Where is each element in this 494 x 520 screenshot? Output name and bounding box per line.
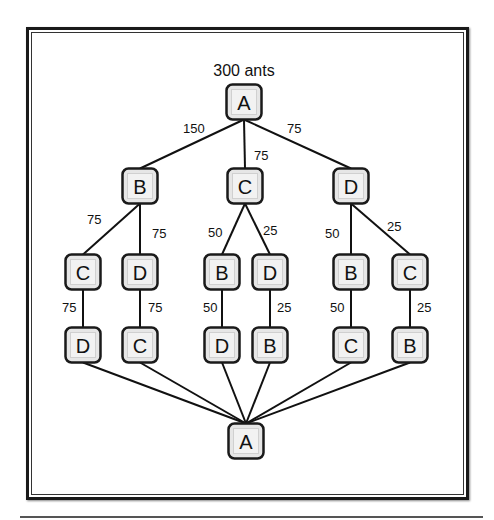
edge-n10-n16 <box>83 363 246 424</box>
node-b: B <box>393 328 428 363</box>
edge-label: 50 <box>325 226 339 241</box>
edge-label: 25 <box>387 219 401 234</box>
node-c: C <box>228 169 263 204</box>
node-d: D <box>253 255 288 290</box>
node-label: C <box>344 335 358 357</box>
node-label: D <box>263 262 277 284</box>
edge-n13-n16 <box>246 363 270 424</box>
node-b: B <box>123 169 158 204</box>
node-label: C <box>133 335 147 357</box>
node-d: D <box>205 328 240 363</box>
node-label: B <box>215 262 228 284</box>
node-d: D <box>334 169 369 204</box>
node-label: D <box>76 335 90 357</box>
node-b: B <box>334 255 369 290</box>
node-c: C <box>393 255 428 290</box>
node-label: A <box>237 92 251 114</box>
node-label: C <box>403 262 417 284</box>
node-label: C <box>76 262 90 284</box>
edge-n0-n2 <box>244 120 245 169</box>
node-label: A <box>239 431 253 453</box>
edge-label: 75 <box>62 300 76 315</box>
edge-label: 75 <box>148 300 162 315</box>
node-label: B <box>344 262 357 284</box>
edge-label: 50 <box>330 300 344 315</box>
edge-n14-n16 <box>246 363 351 424</box>
edge-n2-n6 <box>222 204 245 255</box>
node-label: D <box>133 262 147 284</box>
edge-labels: 1507575757550255025757550255025 <box>62 121 431 315</box>
diagram-title: 300 ants <box>213 62 274 79</box>
node-d: D <box>66 328 101 363</box>
node-label: B <box>263 335 276 357</box>
edge-label: 75 <box>152 226 166 241</box>
edge-label: 50 <box>203 300 217 315</box>
edge-label: 25 <box>417 300 431 315</box>
edge-label: 25 <box>277 300 291 315</box>
node-label: D <box>215 335 229 357</box>
node-label: B <box>133 176 146 198</box>
edge-n11-n16 <box>140 363 246 424</box>
edge-n15-n16 <box>246 363 410 424</box>
node-b: B <box>253 328 288 363</box>
edge-label: 25 <box>263 223 277 238</box>
edge-label: 75 <box>254 148 268 163</box>
node-c: C <box>66 255 101 290</box>
node-label: C <box>238 176 252 198</box>
node-label: D <box>344 176 358 198</box>
node-d: D <box>123 255 158 290</box>
edge-label: 75 <box>287 121 301 136</box>
node-a: A <box>227 85 262 120</box>
nodes: ABCDCDBDBCDCDBCBA <box>66 85 428 459</box>
edge-n12-n16 <box>222 363 246 424</box>
node-label: B <box>403 335 416 357</box>
node-a: A <box>229 424 264 459</box>
edge-label: 50 <box>208 225 222 240</box>
node-c: C <box>123 328 158 363</box>
edge-label: 75 <box>87 212 101 227</box>
edge-label: 150 <box>183 121 205 136</box>
ant-path-tree-diagram: 1507575757550255025757550255025 ABCDCDBD… <box>0 0 494 520</box>
node-c: C <box>334 328 369 363</box>
node-b: B <box>205 255 240 290</box>
